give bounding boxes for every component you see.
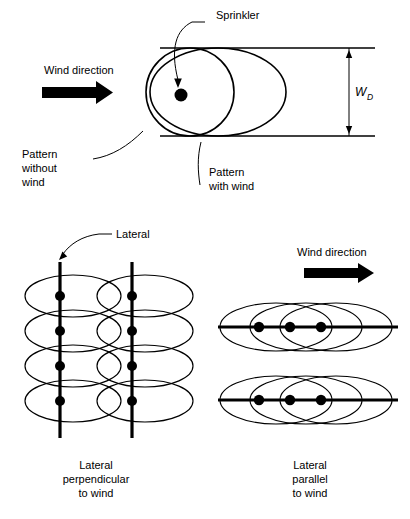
pattern-without-wind-leader (93, 131, 143, 159)
pattern-ellipse (25, 275, 121, 317)
pattern-ellipse (25, 345, 121, 387)
sprinkler-dot (127, 291, 137, 301)
bottom-right-panel: Wind direction (218, 246, 398, 499)
sprinkler-dot (55, 361, 65, 371)
sprinkler-dot (55, 326, 65, 336)
sprinkler-dot (127, 361, 137, 371)
sprinkler-dot (316, 322, 326, 332)
left-lateral-patterns (25, 275, 121, 422)
top-panel: Sprinkler Wind direction Pattern without… (21, 9, 375, 192)
pattern-ellipse (25, 380, 121, 422)
bottom-left-caption-line2: perpendicular (63, 473, 130, 485)
pattern-ellipse (97, 275, 193, 317)
sprinkler-dot (127, 396, 137, 406)
bottom-left-caption-line3: to wind (79, 487, 114, 499)
right-lateral-patterns (97, 275, 193, 422)
pattern-without-wind-label-line2: without (21, 162, 57, 174)
sprinkler-leader-curve (174, 22, 192, 80)
pattern-with-wind-leader (198, 142, 201, 185)
wind-direction-arrow-top (42, 81, 113, 104)
pattern-ellipse (25, 310, 121, 352)
sprinkler-dot (254, 395, 264, 405)
bottom-left-panel: Lateral Lateral perpendicular to wind (25, 228, 193, 499)
lateral-leader-curve (63, 234, 99, 254)
sprinkler-dot (175, 89, 188, 102)
sprinkler-wind-pattern-figure: Sprinkler Wind direction Pattern without… (0, 0, 410, 519)
pattern-without-wind-circle (146, 48, 234, 136)
wind-direction-label-bottom: Wind direction (297, 246, 367, 258)
pattern-ellipse (97, 380, 193, 422)
wind-direction-arrow-bottom (304, 263, 374, 283)
sprinkler-dot (55, 396, 65, 406)
pattern-ellipse (97, 345, 193, 387)
wd-dimension-subscript: D (367, 92, 373, 102)
sprinkler-leader-arrowhead (174, 79, 182, 89)
lateral-label: Lateral (116, 228, 150, 240)
pattern-without-wind-label-line1: Pattern (22, 148, 57, 160)
bottom-right-caption-line1: Lateral (293, 459, 327, 471)
bottom-left-caption-line1: Lateral (79, 459, 113, 471)
wind-direction-label-top: Wind direction (44, 64, 114, 76)
bottom-right-caption-line3: to wind (293, 487, 328, 499)
pattern-with-wind-ellipse (150, 48, 286, 136)
sprinkler-label: Sprinkler (216, 9, 260, 21)
pattern-with-wind-label-line2: with wind (208, 180, 254, 192)
sprinkler-dot (55, 291, 65, 301)
figure-canvas: Sprinkler Wind direction Pattern without… (0, 0, 410, 519)
sprinkler-dot (254, 322, 264, 332)
sprinkler-dot (127, 326, 137, 336)
pattern-ellipse (97, 310, 193, 352)
sprinkler-dot (285, 322, 295, 332)
pattern-with-wind-label-line1: Pattern (209, 166, 244, 178)
sprinkler-dot (285, 395, 295, 405)
bottom-right-caption-line2: parallel (292, 473, 327, 485)
sprinkler-dot (316, 395, 326, 405)
lateral-leader-arrowhead (59, 252, 67, 260)
wd-dimension (346, 48, 352, 136)
pattern-without-wind-label-line3: wind (21, 176, 45, 188)
